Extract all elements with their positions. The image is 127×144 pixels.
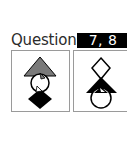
white-diamond-shape — [92, 58, 110, 79]
shape-stack-figure-1 — [12, 51, 69, 111]
figure-panel-1 — [11, 50, 70, 112]
shape-stack-figure-2 — [74, 51, 127, 111]
question-number-badge: 7, 8 — [77, 33, 127, 48]
figure-panel-2 — [73, 50, 127, 112]
black-diamond-shape — [28, 89, 52, 109]
questions-heading: Questions — [11, 32, 84, 48]
